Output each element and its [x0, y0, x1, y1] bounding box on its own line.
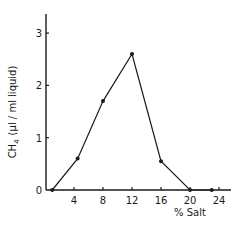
x-tick-label: 16 — [155, 195, 168, 206]
x-tick-label: 12 — [126, 195, 139, 206]
data-point — [210, 188, 214, 192]
x-tick-label: 4 — [71, 195, 77, 206]
line-chart: 01234812162024 % Salt CH4(µl / ml liquid… — [0, 0, 241, 229]
data-series — [50, 52, 214, 192]
data-point — [101, 99, 105, 103]
x-tick-label: 20 — [184, 195, 197, 206]
data-point — [50, 188, 54, 192]
x-tick-label: 8 — [100, 195, 106, 206]
axes: 01234812162024 — [36, 14, 231, 206]
y-tick-label: 2 — [36, 80, 42, 91]
series-line — [52, 54, 212, 190]
data-point — [130, 52, 134, 56]
y-axis-label: CH4(µl / ml liquid) — [7, 66, 21, 159]
y-tick-label: 0 — [36, 185, 42, 196]
y-tick-label: 3 — [36, 28, 42, 39]
data-point — [188, 188, 192, 192]
data-point — [159, 159, 163, 163]
x-tick-label: 24 — [213, 195, 226, 206]
y-tick-label: 1 — [36, 133, 42, 144]
x-axis-label: % Salt — [174, 207, 206, 218]
data-point — [76, 157, 80, 161]
